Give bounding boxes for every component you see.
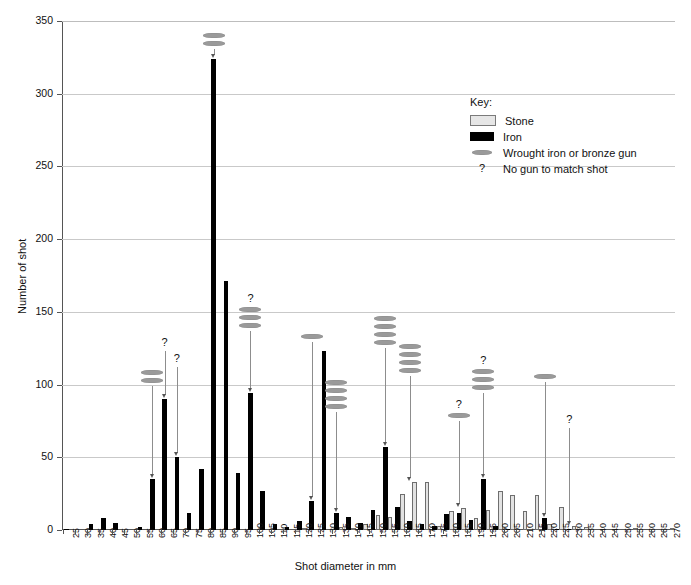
marker-leader-line bbox=[410, 376, 411, 478]
x-tick-mark bbox=[504, 530, 505, 534]
x-tick-label: 195 bbox=[488, 523, 498, 538]
gun-marker-icon bbox=[472, 385, 494, 390]
gun-glyph bbox=[472, 150, 492, 155]
x-tick-label: 70 bbox=[181, 528, 191, 538]
gun-marker-icon bbox=[374, 316, 396, 321]
x-tick-mark bbox=[271, 530, 272, 534]
gun-marker-icon bbox=[472, 377, 494, 382]
x-tick-mark bbox=[577, 530, 578, 534]
x-tick-label: 75 bbox=[194, 528, 204, 538]
x-tick-label: 205 bbox=[512, 523, 522, 538]
chart-legend: Key: StoneIronWrought iron or bronze gun… bbox=[470, 96, 637, 177]
x-tick-mark bbox=[406, 530, 407, 534]
marker-leader-arrowhead bbox=[383, 442, 387, 446]
x-tick-label: 170 bbox=[427, 523, 437, 538]
marker-leader-arrowhead bbox=[542, 513, 546, 517]
x-tick-mark bbox=[381, 530, 382, 534]
y-axis-title: Number of shot bbox=[16, 238, 28, 313]
gun-marker-icon bbox=[374, 340, 396, 345]
x-tick-label: 35 bbox=[96, 528, 106, 538]
x-tick-mark bbox=[234, 530, 235, 534]
gun-marker-stack bbox=[203, 33, 225, 49]
gun-marker-icon bbox=[325, 380, 347, 385]
marker-leader-line bbox=[545, 382, 546, 514]
x-tick-mark bbox=[479, 530, 480, 534]
legend-item-label: Iron bbox=[503, 131, 522, 143]
legend-item-iron-swatch: Iron bbox=[470, 129, 637, 144]
x-tick-label: 65 bbox=[169, 528, 179, 538]
gun-marker-icon bbox=[399, 368, 421, 373]
bar-iron bbox=[175, 457, 180, 530]
y-tick-mark bbox=[57, 530, 62, 531]
x-tick-mark bbox=[614, 530, 615, 534]
gun-marker-stack bbox=[325, 380, 347, 412]
x-tick-mark bbox=[136, 530, 137, 534]
gun-marker-stack: ? bbox=[448, 399, 470, 421]
x-tick-mark bbox=[185, 530, 186, 534]
marker-leader-arrowhead bbox=[248, 388, 252, 392]
legend-item-question-mark: ?No gun to match shot bbox=[470, 161, 637, 176]
x-tick-label: 110 bbox=[279, 524, 289, 538]
x-tick-mark bbox=[467, 530, 468, 534]
marker-leader-line bbox=[312, 342, 313, 497]
x-tick-mark bbox=[357, 530, 358, 534]
x-tick-mark bbox=[443, 530, 444, 534]
no-gun-question-mark: ? bbox=[456, 399, 478, 410]
legend-item-gun-swatch: Wrought iron or bronze gun bbox=[470, 145, 637, 160]
x-tick-mark bbox=[418, 530, 419, 534]
x-tick-mark bbox=[455, 530, 456, 534]
no-gun-question-mark: ? bbox=[480, 355, 502, 366]
x-tick-label: 270 bbox=[672, 523, 682, 538]
x-tick-mark bbox=[148, 530, 149, 534]
x-tick-mark bbox=[63, 530, 64, 534]
x-tick-label: 30 bbox=[83, 528, 93, 538]
x-tick-mark bbox=[246, 530, 247, 534]
x-tick-mark bbox=[553, 530, 554, 534]
legend-item-label: No gun to match shot bbox=[503, 163, 608, 175]
marker-leader-line bbox=[459, 421, 460, 504]
x-tick-mark bbox=[626, 530, 627, 534]
x-tick-mark bbox=[112, 530, 113, 534]
x-tick-label: 90 bbox=[230, 528, 240, 538]
bar-iron bbox=[322, 351, 327, 530]
x-tick-label: 215 bbox=[537, 523, 547, 538]
gun-marker-icon bbox=[301, 334, 323, 339]
x-tick-label: 95 bbox=[243, 528, 253, 538]
x-tick-label: 105 bbox=[267, 523, 277, 538]
marker-leader-arrowhead bbox=[456, 503, 460, 507]
x-tick-label: 150 bbox=[378, 523, 388, 538]
x-tick-label: 135 bbox=[341, 523, 351, 538]
marker-leader-line bbox=[385, 348, 386, 443]
gun-marker-icon bbox=[534, 374, 556, 379]
marker-leader-arrowhead bbox=[334, 508, 338, 512]
x-tick-mark bbox=[161, 530, 162, 534]
shot-diameter-histogram: Number of shot 050100150200250300350 ???… bbox=[0, 0, 691, 585]
x-axis-title: Shot diameter in mm bbox=[0, 560, 691, 572]
gun-marker-icon bbox=[141, 370, 163, 375]
x-tick-mark bbox=[124, 530, 125, 534]
gun-marker-stack bbox=[534, 374, 556, 382]
marker-leader-arrowhead bbox=[174, 452, 178, 456]
x-tick-mark bbox=[99, 530, 100, 534]
gun-marker-icon bbox=[239, 315, 261, 320]
marker-leader-arrowhead bbox=[162, 394, 166, 398]
x-tick-label: 225 bbox=[561, 523, 571, 538]
bar-iron bbox=[64, 529, 69, 530]
x-tick-label: 255 bbox=[635, 523, 645, 538]
gun-marker-stack bbox=[301, 334, 323, 342]
y-tick-label: 350 bbox=[19, 15, 53, 25]
y-tick-label: 300 bbox=[19, 88, 53, 98]
x-tick-label: 130 bbox=[328, 523, 338, 538]
x-tick-label: 235 bbox=[586, 523, 596, 538]
legend-item-label: Stone bbox=[505, 115, 534, 127]
x-tick-mark bbox=[541, 530, 542, 534]
x-tick-mark bbox=[430, 530, 431, 534]
marker-leader-line bbox=[569, 428, 570, 522]
no-gun-question-mark: ? bbox=[174, 353, 180, 364]
y-tick-label: 50 bbox=[19, 451, 53, 461]
x-tick-label: 245 bbox=[610, 523, 620, 538]
x-tick-mark bbox=[210, 530, 211, 534]
x-tick-label: 240 bbox=[598, 523, 608, 538]
marker-leader-arrowhead bbox=[211, 54, 215, 58]
x-tick-mark bbox=[369, 530, 370, 534]
